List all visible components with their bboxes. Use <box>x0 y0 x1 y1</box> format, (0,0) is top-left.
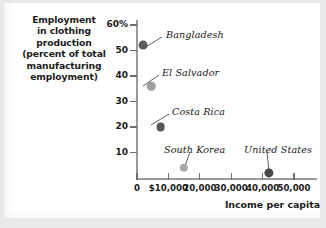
y-axis-line <box>136 20 138 179</box>
x-axis-tick-label: 50,000 <box>277 183 310 193</box>
x-axis-tick <box>293 173 294 180</box>
x-axis-tick <box>199 173 200 180</box>
x-axis-tick-label: 0 <box>134 183 140 193</box>
data-point-united-states[interactable] <box>264 168 273 177</box>
point-label-united-states: United States <box>244 144 312 155</box>
x-axis-tick-label: $10,000 <box>149 183 188 193</box>
y-axis-tick <box>130 152 137 153</box>
x-axis-tick <box>136 173 137 180</box>
y-axis-tick-label: 60% <box>106 19 128 29</box>
y-axis-tick-label: 50 <box>115 45 128 55</box>
scatter-plot: 60%5040302010 0$10,00020,00030,00040,000… <box>4 3 326 228</box>
figure-page: Employment in clothing production (perce… <box>0 0 326 228</box>
y-axis-tick-label: 40 <box>115 70 128 80</box>
point-label-el-salvador: El Salvador <box>162 67 219 78</box>
y-axis-tick <box>130 24 137 25</box>
y-axis-tick-label: 30 <box>115 96 128 106</box>
y-axis-tick-label: 20 <box>115 121 128 131</box>
data-point-south-korea[interactable] <box>180 164 188 172</box>
y-axis-tick <box>130 50 137 51</box>
data-point-bangladesh[interactable] <box>139 41 148 50</box>
x-axis-tick <box>262 173 263 180</box>
y-axis-tick <box>130 101 137 102</box>
y-axis-tick <box>130 75 137 76</box>
x-axis-tick-label: 40,000 <box>246 183 279 193</box>
x-axis-line <box>136 178 317 180</box>
x-axis-title: Income per capita <box>190 199 320 210</box>
x-axis-tick <box>168 173 169 180</box>
x-axis-tick-label: 30,000 <box>215 183 248 193</box>
leader-lines <box>4 3 326 228</box>
figure-panel: Employment in clothing production (perce… <box>4 3 320 218</box>
data-point-el-salvador[interactable] <box>147 82 155 90</box>
y-axis-tick <box>130 126 137 127</box>
point-label-costa-rica: Costa Rica <box>172 106 225 117</box>
point-label-bangladesh: Bangladesh <box>166 29 224 40</box>
point-label-south-korea: South Korea <box>164 144 225 155</box>
y-axis-tick-label: 10 <box>115 147 128 157</box>
x-axis-tick-label: 20,000 <box>183 183 216 193</box>
data-point-costa-rica[interactable] <box>156 123 165 132</box>
x-axis-tick <box>231 173 232 180</box>
